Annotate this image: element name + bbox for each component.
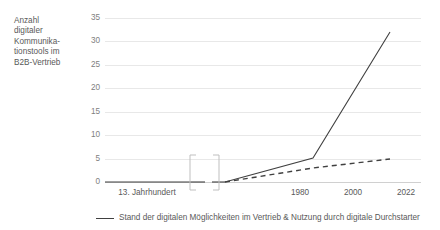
x-tick-label-13-jahrhundert: 13. Jahrhundert <box>118 188 175 197</box>
gridline-20: 20 <box>105 88 421 89</box>
y-tick-label-30: 30 <box>91 37 100 45</box>
legend-line-swatch <box>96 218 114 219</box>
x-tick-label-2022: 2022 <box>397 188 415 197</box>
legend-item-label: Stand der digitalen Möglichkeiten im Ver… <box>119 213 420 223</box>
y-tick-label-15: 15 <box>91 108 100 116</box>
gridline-35: 35 <box>105 18 421 19</box>
x-tick-label-1980: 1980 <box>291 188 309 197</box>
gridline-0: 0 <box>105 182 421 183</box>
gridline-15: 15 <box>105 112 421 113</box>
gridline-5: 5 <box>105 159 421 160</box>
gridline-10: 10 <box>105 135 421 136</box>
gridline-25: 25 <box>105 65 421 66</box>
y-tick-label-0: 0 <box>95 178 100 186</box>
y-tick-label-20: 20 <box>91 84 100 92</box>
chart-legend: Stand der digitalen Möglichkeiten im Ver… <box>96 213 420 223</box>
y-tick-label-10: 10 <box>91 131 100 139</box>
y-tick-label-25: 25 <box>91 61 100 69</box>
y-axis-title: Anzahl digitaler Kommunika- tionstools i… <box>14 16 82 68</box>
gridline-30: 30 <box>105 41 421 42</box>
y-tick-label-5: 5 <box>95 154 100 162</box>
line-chart: Anzahl digitaler Kommunika- tionstools i… <box>0 0 440 230</box>
y-tick-label-35: 35 <box>91 14 100 22</box>
x-tick-label-2000: 2000 <box>344 188 362 197</box>
plot-area: 35 30 25 20 15 10 5 0 <box>105 18 421 182</box>
